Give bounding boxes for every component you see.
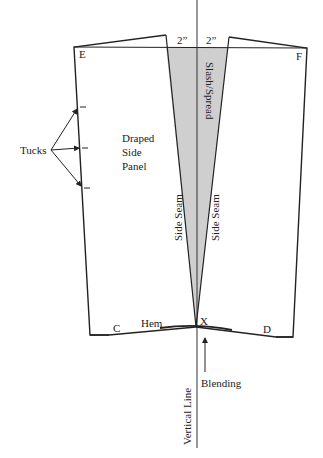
tuck-arrow-3: [51, 150, 81, 186]
right-panel-outline: [229, 37, 307, 337]
panel-label-line2: Side: [122, 146, 142, 158]
corner-f-label: F: [296, 50, 302, 62]
side-seam-right-label: Side Seam: [209, 194, 221, 241]
blending-label: Blending: [201, 377, 242, 389]
corner-c-label: C: [113, 322, 120, 334]
point-x-label: X: [200, 315, 208, 327]
horizontal-line-ef: [74, 47, 307, 48]
vertical-line-label: Vertical Line: [181, 388, 193, 445]
hem-label: Hem: [141, 317, 163, 329]
slash-spread-label: Slash/Spread: [204, 62, 216, 120]
tuck-arrow-2: [51, 148, 79, 150]
tuck-arrow-1: [51, 109, 77, 150]
corner-d-label: D: [263, 323, 271, 335]
panel-label-line3: Panel: [122, 160, 146, 172]
panel-label-line1: Draped: [122, 132, 155, 144]
measure-right-label: 2”: [206, 34, 217, 46]
side-seam-left-label: Side Seam: [172, 194, 184, 241]
left-panel-outline: [74, 35, 166, 335]
pattern-diagram: E F C D X 2” 2” Tucks Draped Side Panel …: [0, 0, 323, 458]
corner-e-label: E: [79, 48, 86, 60]
hem-right: [196, 327, 293, 337]
tucks-label: Tucks: [20, 144, 47, 156]
measure-left-label: 2”: [177, 34, 188, 46]
